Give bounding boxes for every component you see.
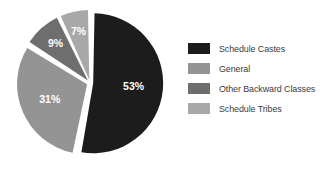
legend-item[interactable]: General <box>188 58 326 78</box>
pie-slice-value-label: 53% <box>123 80 145 92</box>
pie-chart-plot-area: 53%31%9%7% <box>0 0 190 175</box>
legend-item-label: General <box>219 63 250 74</box>
pie-chart-figure: 53%31%9%7% Schedule CastesGeneralOther B… <box>0 0 326 196</box>
pie-slice-value-label: 9% <box>48 37 64 49</box>
legend-item-label: Other Backward Classes <box>219 83 315 94</box>
legend-item[interactable]: Schedule Tribes <box>188 98 326 118</box>
chart-legend: Schedule CastesGeneralOther Backward Cla… <box>188 38 326 118</box>
legend-item[interactable]: Other Backward Classes <box>188 78 326 98</box>
legend-color-swatch <box>188 43 210 54</box>
legend-color-swatch <box>188 83 210 94</box>
pie-slice-value-label: 31% <box>39 93 61 105</box>
legend-color-swatch <box>188 103 210 114</box>
pie-chart-svg: 53%31%9%7% <box>0 0 190 175</box>
legend-item-label: Schedule Tribes <box>219 103 282 114</box>
legend-item[interactable]: Schedule Castes <box>188 38 326 58</box>
pie-slice-value-label: 7% <box>71 25 87 37</box>
legend-color-swatch <box>188 63 210 74</box>
legend-item-label: Schedule Castes <box>219 43 285 54</box>
